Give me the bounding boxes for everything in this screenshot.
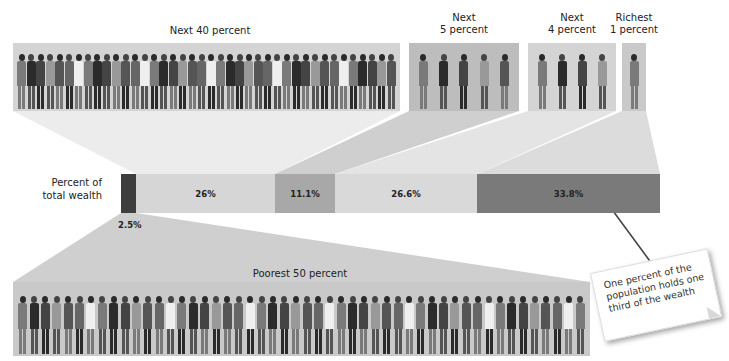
person-figure-icon [64,296,73,354]
person-figure-icon [382,296,391,354]
person-figure-icon [598,54,607,109]
person-figure-icon [223,296,232,354]
person-figure-icon [325,296,334,354]
label-next-4: Next 4 percent [527,12,617,36]
person-figure-icon [462,296,471,354]
person-figure-icon [419,54,428,109]
person-figure-icon [301,54,310,109]
person-figure-icon [530,296,539,354]
person-figure-icon [459,54,468,109]
person-figure-icon [576,296,585,354]
person-figure-icon [52,296,61,354]
person-figure-icon [200,296,209,354]
person-figure-icon [416,296,425,354]
person-figure-icon [93,54,102,109]
people-illustration [13,288,590,354]
person-figure-icon [263,54,272,109]
person-figure-icon [18,296,27,354]
person-figure-icon [27,54,36,109]
person-figure-icon [377,54,386,109]
person-figure-icon [496,296,505,354]
person-figure-icon [314,296,323,354]
person-figure-icon [30,296,39,354]
person-figure-icon [480,54,489,109]
person-figure-icon [140,54,149,109]
person-figure-icon [166,296,175,354]
person-figure-icon [246,296,255,354]
person-figure-icon [244,54,253,109]
person-figure-icon [98,296,107,354]
person-figure-icon [428,296,437,354]
person-figure-icon [207,54,216,109]
image-next-5-percent [409,43,519,111]
image-next-40-percent [13,43,400,111]
person-figure-icon [292,54,301,109]
image-richest-1-percent [622,43,646,111]
person-figure-icon [177,296,186,354]
person-figure-icon [394,296,403,354]
label-next-5: Next 5 percent [419,12,509,36]
bar-segment-next-4: 26.6% [335,174,477,213]
person-figure-icon [439,54,448,109]
person-figure-icon [74,54,83,109]
person-figure-icon [371,296,380,354]
person-figure-icon [150,54,159,109]
person-figure-icon [212,296,221,354]
person-figure-icon [630,54,639,109]
person-figure-icon [197,54,206,109]
bar-segment-next-5: 11.1% [275,174,335,213]
person-figure-icon [178,54,187,109]
person-figure-icon [541,296,550,354]
label-richest-1: Richest 1 percent [606,12,662,36]
person-figure-icon [189,296,198,354]
person-figure-icon [507,296,516,354]
people-illustration [13,49,400,109]
person-figure-icon [226,54,235,109]
person-figure-icon [320,54,329,109]
person-figure-icon [17,54,26,109]
person-figure-icon [337,296,346,354]
person-figure-icon [65,54,74,109]
callout-text: One percent of the population holds one … [603,258,712,315]
people-illustration [622,49,646,109]
value-label-poorest-50: 2.5% [118,220,142,230]
person-figure-icon [143,296,152,354]
person-figure-icon [291,296,300,354]
person-figure-icon [41,296,50,354]
person-figure-icon [450,296,459,354]
person-figure-icon [359,296,368,354]
person-figure-icon [439,296,448,354]
person-figure-icon [86,296,95,354]
people-illustration [528,49,616,109]
person-figure-icon [339,54,348,109]
person-figure-icon [303,296,312,354]
bar-segment-richest-1: 33.8% [477,174,660,213]
person-figure-icon [519,296,528,354]
page-curl-decoration [707,304,721,318]
person-figure-icon [349,54,358,109]
axis-label-total-wealth: Percent of total wealth [30,176,102,202]
person-figure-icon [538,54,547,109]
person-figure-icon [578,54,587,109]
person-figure-icon [257,296,266,354]
person-figure-icon [84,54,93,109]
person-figure-icon [368,54,377,109]
person-figure-icon [473,296,482,354]
person-figure-icon [387,54,396,109]
image-next-4-percent [528,43,616,111]
person-figure-icon [159,54,168,109]
person-figure-icon [268,296,277,354]
person-figure-icon [55,54,64,109]
label-next-40: Next 40 percent [150,25,270,37]
person-figure-icon [234,296,243,354]
person-figure-icon [282,54,291,109]
person-figure-icon [188,54,197,109]
person-figure-icon [485,296,494,354]
image-poorest-50-percent [13,282,590,356]
person-figure-icon [46,54,55,109]
people-illustration [409,49,519,109]
person-figure-icon [273,54,282,109]
person-figure-icon [75,296,84,354]
person-figure-icon [358,54,367,109]
person-figure-icon [169,54,178,109]
